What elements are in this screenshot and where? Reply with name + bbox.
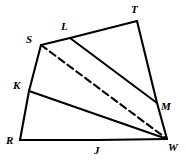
segment-R-K bbox=[20, 91, 29, 140]
vertex-label-T: T bbox=[131, 4, 138, 15]
vertex-label-R: R bbox=[6, 135, 13, 146]
geometry-figure: S L T M W J R K bbox=[0, 0, 186, 162]
vertex-label-K: K bbox=[13, 80, 20, 91]
geometry-canvas bbox=[0, 0, 186, 162]
segment-W-J bbox=[98, 139, 167, 140]
segments-group bbox=[20, 21, 167, 140]
vertex-label-J: J bbox=[94, 145, 100, 156]
segment-K-W bbox=[29, 91, 167, 139]
vertex-label-L: L bbox=[61, 21, 68, 32]
vertex-label-M: M bbox=[161, 101, 171, 112]
vertex-label-S: S bbox=[26, 34, 32, 45]
segment-S-W bbox=[41, 45, 167, 139]
segment-K-S bbox=[29, 45, 41, 91]
vertex-label-W: W bbox=[168, 142, 178, 153]
segment-L-T bbox=[70, 21, 137, 38]
segment-S-L bbox=[41, 38, 70, 45]
